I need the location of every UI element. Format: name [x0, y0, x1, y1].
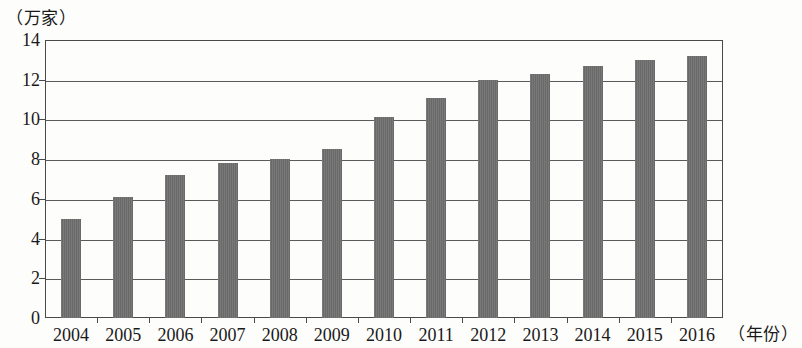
bar [61, 219, 81, 318]
bar [322, 149, 342, 318]
x-axis-tick-label: 2013 [510, 322, 570, 348]
x-axis-tick-labels: 2004200520062007200820092010201120122013… [45, 322, 723, 348]
x-axis-tick-label: 2010 [354, 322, 414, 348]
x-axis-tick-label: 2011 [406, 322, 466, 348]
bar [635, 60, 655, 318]
bar [583, 66, 603, 318]
bar [165, 175, 185, 318]
bars-group [45, 40, 723, 318]
y-axis-tick-marks [0, 40, 45, 318]
bar [218, 163, 238, 318]
x-axis-tick-label: 2007 [198, 322, 258, 348]
bar [374, 117, 394, 318]
x-axis-tick-label: 2015 [615, 322, 675, 348]
bar [478, 80, 498, 318]
x-axis-tick-label: 2004 [41, 322, 101, 348]
bar-chart: （万家） 02468101214 20042005200620072008200… [0, 0, 802, 348]
bar [687, 56, 707, 318]
bar [113, 197, 133, 318]
x-axis-tick-label: 2005 [93, 322, 153, 348]
x-axis-tick-label: 2012 [458, 322, 518, 348]
bar [530, 74, 550, 318]
bar [270, 159, 290, 318]
x-axis-unit-caption: （年份） [728, 322, 798, 348]
x-axis-tick-label: 2009 [302, 322, 362, 348]
x-axis-tick-label: 2008 [250, 322, 310, 348]
x-axis-tick-label: 2014 [563, 322, 623, 348]
y-axis-unit-caption: （万家） [6, 4, 76, 29]
x-axis-tick-label: 2016 [667, 322, 727, 348]
x-axis-tick-label: 2006 [145, 322, 205, 348]
bar [426, 98, 446, 318]
